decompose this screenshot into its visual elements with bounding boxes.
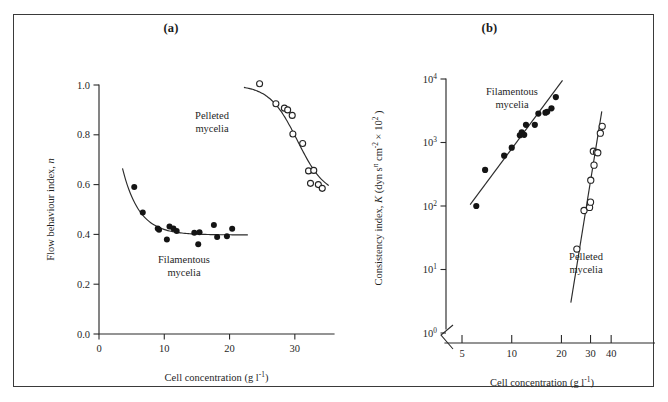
data-point-pelleted bbox=[599, 123, 605, 129]
y-tick-label: 0.2 bbox=[77, 279, 90, 290]
data-point-pelleted bbox=[257, 81, 263, 87]
x-tick-label: 20 bbox=[224, 343, 235, 354]
data-point-filamentous bbox=[224, 233, 230, 239]
data-point-pelleted bbox=[300, 141, 306, 147]
data-point-pelleted bbox=[289, 112, 295, 118]
pelleted-mycelia-label: Pelleted bbox=[569, 251, 604, 262]
pelleted-mycelia-label-2: mycelia bbox=[195, 123, 229, 134]
x-tick-label: 30 bbox=[585, 348, 596, 359]
data-point-pelleted bbox=[273, 101, 279, 107]
panel-a: (a) 0.00.20.40.60.81.00102030Cell concen… bbox=[14, 15, 344, 388]
data-point-filamentous bbox=[548, 105, 554, 111]
filamentous-mycelia-label-2: mycelia bbox=[167, 267, 201, 278]
pelleted-mycelia-label: Pelleted bbox=[195, 110, 230, 121]
y-tick-label: 0.4 bbox=[77, 229, 91, 240]
data-point-filamentous bbox=[482, 167, 488, 173]
data-point-filamentous bbox=[501, 153, 507, 159]
axis-break-marker bbox=[441, 325, 453, 349]
y-tick-label: 100 bbox=[423, 325, 438, 339]
data-point-pelleted bbox=[588, 177, 594, 183]
data-point-pelleted bbox=[591, 162, 597, 168]
data-point-pelleted bbox=[290, 131, 296, 137]
panel-b: (b) 100101102103104510203040Cell concent… bbox=[344, 15, 655, 388]
data-point-filamentous bbox=[140, 209, 146, 215]
data-point-filamentous bbox=[229, 226, 235, 232]
x-tick-label: 10 bbox=[506, 348, 516, 359]
data-point-filamentous bbox=[521, 132, 527, 138]
y-tick-label: 0.6 bbox=[77, 179, 90, 190]
panel-b-plot: 100101102103104510203040Cell concentrati… bbox=[344, 15, 655, 388]
data-point-filamentous bbox=[195, 241, 201, 247]
data-point-filamentous bbox=[164, 236, 170, 242]
filamentous-fit-curve bbox=[123, 168, 248, 234]
data-point-pelleted bbox=[308, 180, 314, 186]
data-point-filamentous bbox=[509, 145, 515, 151]
panel-a-points bbox=[131, 81, 325, 248]
y-tick-label: 102 bbox=[423, 198, 438, 212]
y-tick-label: 104 bbox=[423, 71, 438, 85]
data-point-filamentous bbox=[214, 234, 220, 240]
data-point-filamentous bbox=[156, 227, 162, 233]
x-tick-label: 10 bbox=[159, 343, 170, 354]
panel-b-yaxis-title: Consistency index, K (dyn sn cm-2 × 102 … bbox=[371, 110, 386, 285]
data-point-pelleted bbox=[285, 107, 291, 113]
filamentous-mycelia-label-2: mycelia bbox=[495, 99, 529, 110]
data-point-pelleted bbox=[587, 199, 593, 205]
x-tick-label: 30 bbox=[290, 343, 301, 354]
data-point-filamentous bbox=[191, 230, 197, 236]
panel-b-axes: 100101102103104510203040Cell concentrati… bbox=[371, 71, 656, 388]
y-tick-label: 0.8 bbox=[77, 129, 90, 140]
panel-a-xaxis-title: Cell concentration (g l-1) bbox=[165, 370, 269, 385]
panel-a-axes: 0.00.20.40.60.81.00102030Cell concentrat… bbox=[45, 80, 334, 384]
data-point-pelleted bbox=[319, 185, 325, 191]
panel-a-annotations: PelletedmyceliaFilamentousmycelia bbox=[158, 110, 230, 278]
figure-root: (a) 0.00.20.40.60.81.00102030Cell concen… bbox=[0, 0, 668, 402]
x-tick-label: 40 bbox=[606, 348, 617, 359]
y-tick-label: 103 bbox=[423, 135, 438, 149]
data-point-filamentous bbox=[131, 184, 137, 190]
data-point-pelleted bbox=[597, 130, 603, 136]
data-point-filamentous bbox=[553, 94, 559, 100]
data-point-filamentous bbox=[473, 203, 479, 209]
data-point-filamentous bbox=[535, 111, 541, 117]
filamentous-mycelia-label: Filamentous bbox=[158, 254, 210, 265]
x-tick-label: 20 bbox=[556, 348, 567, 359]
data-point-filamentous bbox=[197, 229, 203, 235]
y-tick-label: 101 bbox=[423, 262, 438, 276]
data-point-pelleted bbox=[595, 150, 601, 156]
panel-a-yaxis-title: Flow behaviour index, n bbox=[45, 158, 56, 261]
data-point-filamentous bbox=[211, 222, 217, 228]
data-point-filamentous bbox=[174, 228, 180, 234]
x-tick-label: 5 bbox=[459, 348, 464, 359]
filamentous-mycelia-label: Filamentous bbox=[486, 86, 538, 97]
x-tick-label: 0 bbox=[96, 343, 101, 354]
y-tick-label: 1.0 bbox=[77, 80, 90, 91]
data-point-pelleted bbox=[311, 167, 317, 173]
panel-a-plot: 0.00.20.40.60.81.00102030Cell concentrat… bbox=[14, 15, 344, 388]
y-tick-label: 0.0 bbox=[77, 329, 90, 340]
figure-frame: (a) 0.00.20.40.60.81.00102030Cell concen… bbox=[13, 14, 654, 387]
pelleted-mycelia-label-2: mycelia bbox=[569, 264, 603, 275]
data-point-filamentous bbox=[532, 122, 538, 128]
data-point-filamentous bbox=[523, 122, 529, 128]
panel-b-xaxis-title: Cell concentration (g l-1) bbox=[490, 375, 594, 389]
